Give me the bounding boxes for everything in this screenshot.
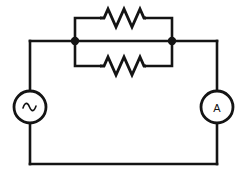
wire-top-branch-right-riser	[146, 18, 172, 41]
wire-bottom-branch-right-riser	[146, 41, 172, 66]
wire-top-branch-left-riser	[75, 18, 100, 41]
ac-source-symbol	[14, 91, 46, 123]
circuit-schematic: A	[0, 0, 246, 178]
resistor-bottom-icon	[100, 57, 146, 75]
bottom-resistor-branch	[75, 41, 172, 75]
ammeter-symbol: A	[201, 91, 233, 123]
junction-dot-left	[71, 37, 79, 45]
circuit-diagram-canvas: A	[0, 0, 246, 178]
resistor-top-icon	[100, 9, 146, 27]
top-resistor-branch	[75, 9, 172, 41]
ammeter-label: A	[213, 102, 221, 114]
junction-dot-right	[168, 37, 176, 45]
wire-bottom-branch-left-riser	[75, 41, 100, 66]
